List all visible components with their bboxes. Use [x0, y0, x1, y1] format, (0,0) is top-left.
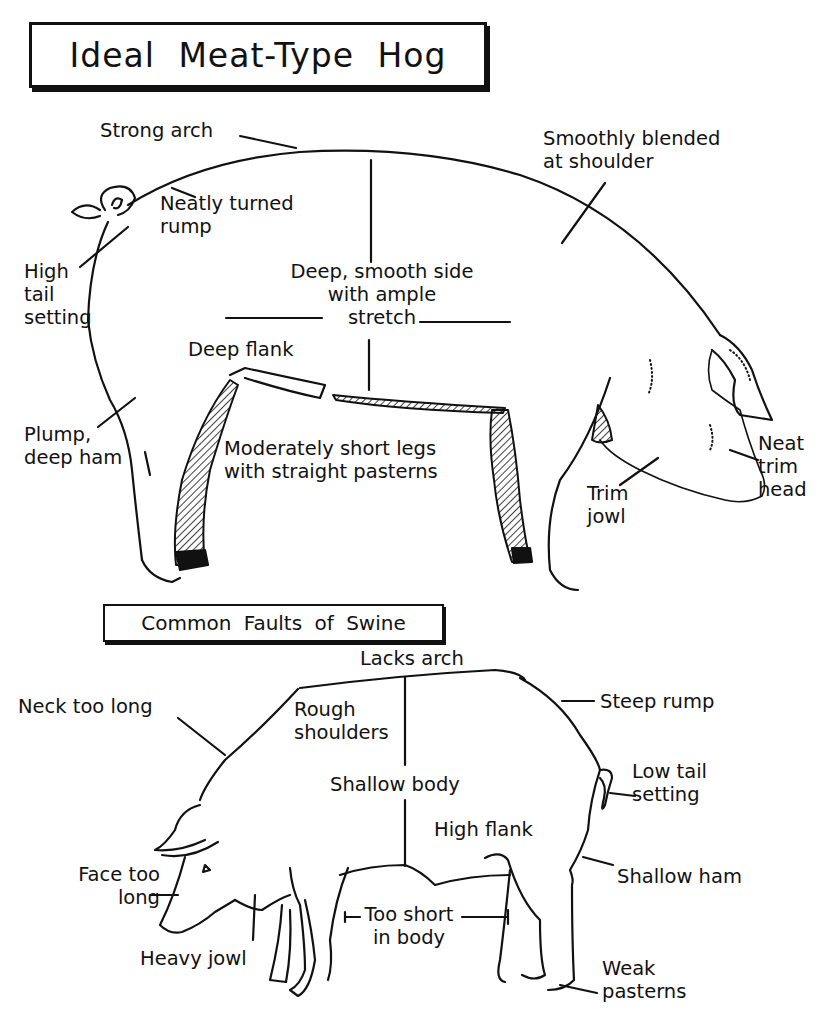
label-weak-pasterns: Weak pasterns — [602, 957, 686, 1003]
label-heavy-jowl: Heavy jowl — [140, 947, 247, 970]
label-plump-deep-ham: Plump, deep ham — [24, 423, 122, 469]
label-shallow-ham: Shallow ham — [617, 865, 742, 888]
label-face-too-long: Face too long — [40, 863, 160, 909]
label-too-short-in-body: Too short in body — [356, 903, 462, 949]
label-smoothly-blended: Smoothly blended at shoulder — [543, 127, 720, 173]
label-steep-rump: Steep rump — [600, 690, 714, 713]
eye-icon — [203, 865, 210, 872]
label-lacks-arch: Lacks arch — [360, 647, 464, 670]
label-trim-jowl: Trim jowl — [587, 482, 628, 528]
tail-icon — [101, 186, 135, 215]
label-shallow-body: Shallow body — [330, 773, 460, 796]
faults-title: Common Faults of Swine — [141, 611, 405, 635]
label-neck-too-long: Neck too long — [18, 695, 153, 718]
label-high-tail-setting: High tail setting — [24, 260, 92, 329]
label-neatly-turned-rump: Neatly turned rump — [160, 192, 294, 238]
label-rough-shoulders: Rough shoulders — [294, 698, 389, 744]
label-deep-smooth-side: Deep, smooth side with ample stretch — [278, 260, 486, 329]
label-low-tail-setting: Low tail setting — [632, 760, 707, 806]
label-high-flank: High flank — [434, 818, 533, 841]
label-neat-trim-head: Neat trim head — [758, 432, 807, 501]
label-strong-arch: Strong arch — [100, 119, 213, 142]
faults-title-box: Common Faults of Swine — [103, 604, 444, 642]
diagram-canvas: Ideal Meat-Type Hog Strong arch Neatly t… — [0, 0, 837, 1026]
label-deep-flank: Deep flank — [188, 338, 293, 361]
title-box: Ideal Meat-Type Hog — [29, 22, 487, 88]
label-moderately-short-legs: Moderately short legs with straight past… — [224, 437, 438, 483]
page-title: Ideal Meat-Type Hog — [70, 36, 447, 75]
